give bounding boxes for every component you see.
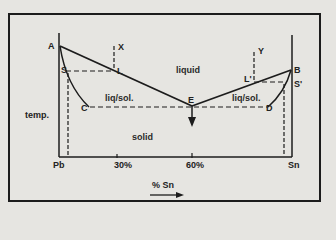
point-x: X	[118, 43, 124, 52]
x-tick-label-60: 60%	[186, 161, 204, 170]
x-axis-label: % Sn	[152, 181, 174, 190]
right-arrow-icon	[176, 192, 184, 198]
region-liquid: liquid	[176, 66, 200, 75]
y-axis-label: temp.	[25, 111, 49, 120]
x-label-sn: Sn	[288, 161, 300, 170]
solidus-left	[60, 46, 89, 107]
point-c: C	[81, 104, 88, 113]
point-s-prime: S'	[294, 80, 302, 89]
solidus-right	[268, 70, 291, 107]
point-b: B	[294, 66, 301, 75]
region-liq-sol-right: liq/sol.	[232, 94, 261, 103]
point-l-prime: L'	[244, 75, 252, 84]
region-liq-sol-left: liq/sol.	[105, 94, 134, 103]
x-label-pb: Pb	[53, 161, 65, 170]
point-l: L	[117, 67, 123, 76]
point-y: Y	[258, 47, 264, 56]
point-e: E	[188, 96, 194, 105]
down-arrow-icon	[188, 117, 196, 127]
x-tick-label-30: 30%	[114, 161, 132, 170]
point-s: S	[61, 66, 67, 75]
region-solid: solid	[132, 133, 153, 142]
point-a: A	[48, 42, 55, 51]
point-d: D	[266, 104, 273, 113]
